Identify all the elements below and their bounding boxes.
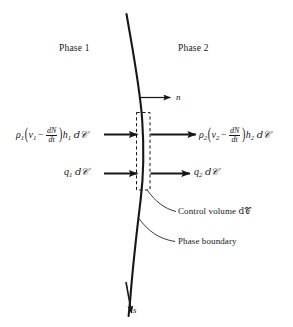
heat-flux-right-expression: q2d𝒞 — [194, 167, 218, 179]
enthalpy-flux-left-expression: ρ1(v1−dNdt)h1d𝒞 — [16, 127, 87, 144]
phase-1-label: Phase 1 — [59, 44, 90, 54]
phase-boundary-leader-line — [139, 219, 175, 242]
open-paren: ( — [25, 126, 28, 144]
control-volume-area-symbol: d𝒞 — [239, 206, 252, 216]
area-element-symbol: d𝒞 — [202, 166, 218, 177]
control-volume-annotation-text: Control volume — [178, 206, 239, 216]
rho-2-subscript: 2 — [204, 134, 207, 141]
fraction-denominator: dt — [229, 136, 240, 144]
minus-operator: − — [219, 129, 228, 140]
phase-boundary-curve — [127, 14, 144, 316]
phase-boundary-figure: Phase 1 Phase 2 n s ρ1(v1−dNdt)h1d𝒞 ρ2(v… — [0, 0, 293, 327]
open-paren: ( — [208, 126, 211, 144]
phase-2-label: Phase 2 — [178, 44, 209, 54]
dn-dt-fraction: dNdt — [46, 127, 57, 144]
area-element-symbol: d𝒞 — [71, 129, 87, 140]
area-element-symbol: d𝒞 — [254, 129, 270, 140]
area-element-symbol: d𝒞 — [72, 166, 88, 177]
fraction-denominator: dt — [46, 136, 57, 144]
close-paren: ) — [59, 126, 62, 144]
dn-dt-fraction: dNdt — [229, 127, 240, 144]
close-paren: ) — [242, 126, 245, 144]
tangent-vector-label: s — [133, 306, 137, 315]
phase-boundary-annotation: Phase boundary — [178, 237, 237, 246]
rho-1-subscript: 1 — [21, 134, 24, 141]
control-volume-annotation: Control volume d𝒞 — [178, 207, 251, 216]
enthalpy-flux-right-expression: ρ2(v2−dNdt)h2d𝒞 — [199, 127, 270, 144]
heat-flux-left-expression: q1d𝒞 — [64, 167, 88, 179]
normal-vector-label: n — [176, 93, 181, 102]
control-volume-leader-line — [148, 191, 177, 212]
diagram-canvas — [0, 0, 293, 327]
minus-operator: − — [36, 129, 45, 140]
